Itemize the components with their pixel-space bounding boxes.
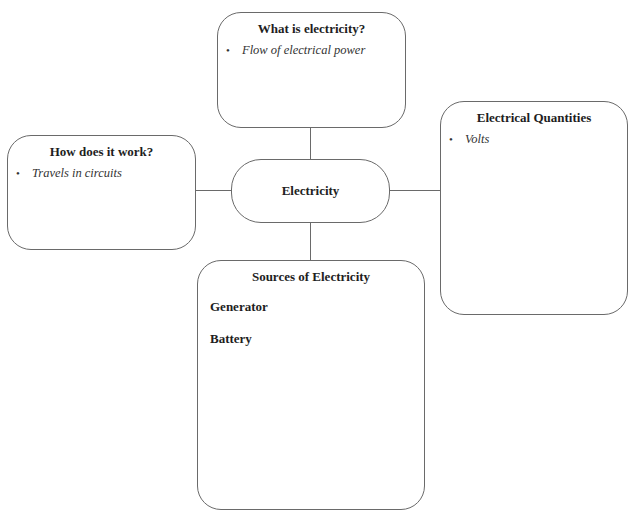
bullet-icon: • (16, 167, 32, 179)
node-electrical-quantities: Electrical Quantities • Volts (440, 101, 628, 315)
list-item: Battery (210, 331, 424, 347)
node-title: Sources of Electricity (198, 269, 424, 285)
node-sources-of-electricity: Sources of Electricity Generator Battery (197, 260, 425, 510)
connector-top (310, 127, 311, 160)
connector-right (389, 190, 441, 191)
list-item: Generator (210, 299, 424, 315)
connector-bottom (310, 222, 311, 261)
node-title: What is electricity? (218, 21, 405, 37)
list-item-text: Flow of electrical power (242, 43, 365, 58)
list-item: • Travels in circuits (16, 166, 195, 181)
connector-left (195, 190, 232, 191)
node-title: How does it work? (8, 144, 195, 160)
bullet-list: • Travels in circuits (8, 166, 195, 181)
center-label: Electricity (232, 183, 389, 199)
bullet-icon: • (226, 44, 242, 56)
bullet-list: • Volts (441, 132, 627, 147)
source-list: Generator Battery (198, 299, 424, 347)
node-how-does-it-work: How does it work? • Travels in circuits (7, 135, 196, 250)
node-title: Electrical Quantities (441, 110, 627, 126)
bullet-icon: • (449, 133, 465, 145)
node-what-is-electricity: What is electricity? • Flow of electrica… (217, 12, 406, 128)
list-item: • Volts (449, 132, 627, 147)
list-item: • Flow of electrical power (226, 43, 405, 58)
node-center-electricity: Electricity (231, 159, 390, 223)
bullet-list: • Flow of electrical power (218, 43, 405, 58)
list-item-text: Volts (465, 132, 489, 147)
list-item-text: Travels in circuits (32, 166, 122, 181)
